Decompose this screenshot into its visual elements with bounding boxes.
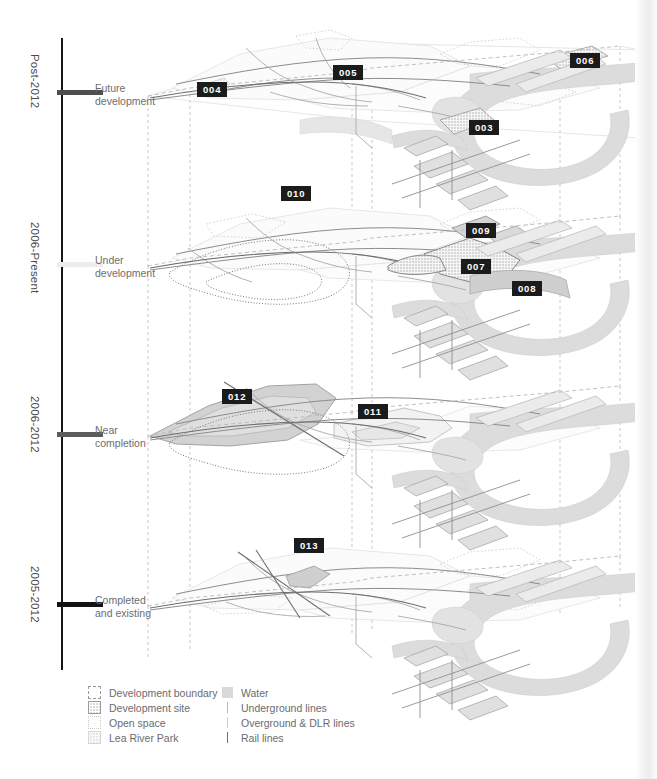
underground-lines-swatch-icon (222, 702, 233, 713)
stage-label-near-completion: Near completion (95, 424, 175, 450)
legend-label: Overground & DLR lines (241, 717, 355, 729)
rail-lines-swatch-icon (222, 732, 233, 743)
legend-item-lea-river-park: Lea River Park (88, 730, 218, 745)
legend-item-underground-lines: Underground lines (222, 700, 355, 715)
open-space-swatch-icon (88, 716, 101, 729)
legend-column-left: Development boundary Development site Op… (88, 685, 218, 745)
legend-item-rail-lines: Rail lines (222, 730, 355, 745)
legend-column-right: Water Underground lines Overground & DLR… (222, 685, 355, 745)
lea-river-park-swatch-icon (88, 731, 101, 744)
stage-label-line1: Under (95, 254, 175, 267)
development-site-swatch-icon (88, 701, 101, 714)
legend-label: Water (241, 687, 269, 699)
stage-label-line1: Future (95, 82, 175, 95)
legend-label: Open space (109, 717, 166, 729)
timeline-era-2006-2012: 2006-2012 (29, 396, 41, 453)
timeline-era-2006-present: 2006-Present (29, 222, 41, 293)
map-marker-010[interactable]: 010 (281, 186, 311, 201)
development-boundary-swatch-icon (88, 686, 101, 699)
stage-label-future-development: Future development (95, 82, 175, 108)
legend-label: Lea River Park (109, 732, 178, 744)
map-marker-006[interactable]: 006 (570, 53, 600, 68)
stage-label-line2: completion (95, 437, 175, 450)
map-marker-007[interactable]: 007 (461, 259, 491, 274)
overground-dlr-lines-swatch-icon (222, 717, 233, 728)
map-marker-005[interactable]: 005 (333, 65, 363, 80)
stage-label-under-development: Under development (95, 254, 175, 280)
stage-label-completed-and-existing: Completed and existing (95, 594, 175, 620)
map-marker-009[interactable]: 009 (466, 223, 496, 238)
stage-label-line1: Near (95, 424, 175, 437)
legend-item-development-boundary: Development boundary (88, 685, 218, 700)
diagram-page: 004 005 006 003 010 009 007 008 012 011 … (0, 0, 657, 779)
map-marker-004[interactable]: 004 (197, 82, 227, 97)
page-edge-shading (635, 0, 657, 779)
legend-label: Rail lines (241, 732, 284, 744)
map-marker-012[interactable]: 012 (222, 389, 252, 404)
stage-label-line2: development (95, 267, 175, 280)
timeline-era-post-2012: Post-2012 (29, 54, 41, 108)
map-marker-008[interactable]: 008 (512, 281, 542, 296)
water-swatch-icon (222, 687, 233, 698)
map-marker-003[interactable]: 003 (469, 120, 499, 135)
legend-label: Development boundary (109, 687, 218, 699)
timeline-axis-line (61, 38, 63, 670)
legend-item-open-space: Open space (88, 715, 218, 730)
timeline-era-2005-2012: 2005-2012 (29, 566, 41, 623)
legend-label: Development site (109, 702, 190, 714)
stage-label-line2: development (95, 95, 175, 108)
stage-label-line2: and existing (95, 607, 175, 620)
legend-item-water: Water (222, 685, 355, 700)
legend-item-development-site: Development site (88, 700, 218, 715)
legend-label: Underground lines (241, 702, 327, 714)
map-marker-011[interactable]: 011 (358, 404, 388, 419)
stage-label-line1: Completed (95, 594, 175, 607)
legend-item-overground-dlr-lines: Overground & DLR lines (222, 715, 355, 730)
map-marker-013[interactable]: 013 (294, 538, 324, 553)
